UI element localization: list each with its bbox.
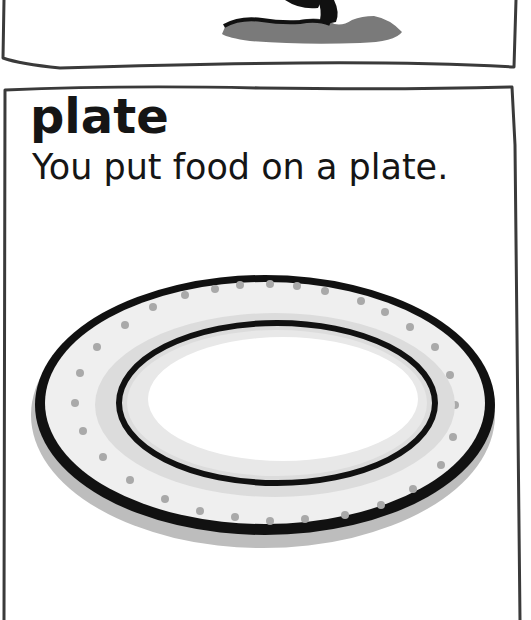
previous-flashcard (0, 0, 531, 72)
tree-base-icon (222, 0, 402, 44)
plate-illustration (25, 265, 505, 565)
plate-icon (25, 265, 505, 565)
previous-card-frame (0, 0, 531, 72)
example-sentence: You put food on a plate. (32, 150, 448, 185)
vocabulary-word: plate (30, 92, 169, 140)
